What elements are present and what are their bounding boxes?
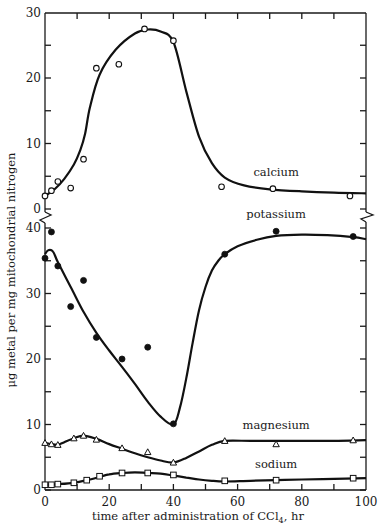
calcium-point-circle-icon xyxy=(55,179,61,185)
y-tick-label: 10 xyxy=(26,418,41,432)
sodium-point-square-icon xyxy=(84,477,90,483)
right-axis-break-icon xyxy=(361,212,373,222)
y-tick-label: 10 xyxy=(26,137,41,151)
calcium-point-circle-icon xyxy=(270,186,276,192)
y-tick-label: 0 xyxy=(33,202,41,216)
sodium-curve xyxy=(45,472,366,485)
potassium-curve xyxy=(45,235,366,425)
potassium-point-dot-icon xyxy=(170,421,176,427)
calcium-curve xyxy=(45,29,366,196)
y-tick-label: 30 xyxy=(26,6,41,20)
potassium-point-dot-icon xyxy=(145,344,151,350)
calcium-point-circle-icon xyxy=(49,188,55,194)
magnesium-point-triangle-icon xyxy=(145,449,151,455)
axes: 0204060801000102030010203040 xyxy=(26,6,378,510)
potassium-point-dot-icon xyxy=(48,229,54,235)
sodium-point-square-icon xyxy=(49,482,55,488)
calcium-point-circle-icon xyxy=(81,156,87,162)
sodium-point-square-icon xyxy=(119,470,125,476)
chart-canvas: 0204060801000102030010203040 calciumpota… xyxy=(0,0,382,528)
potassium-point-dot-icon xyxy=(93,334,99,340)
calcium-point-circle-icon xyxy=(171,38,177,44)
calcium-point-circle-icon xyxy=(116,61,122,67)
y-axis-title: μg metal per mg mitochondrial nitrogen xyxy=(4,152,18,388)
series-labels: calciumpotassiummagnesiumsodium xyxy=(243,165,310,470)
calcium-label: calcium xyxy=(253,165,299,179)
x-tick-label: 0 xyxy=(41,495,49,509)
potassium-point-dot-icon xyxy=(42,255,48,261)
calcium-point-circle-icon xyxy=(94,65,100,71)
y-tick-label: 30 xyxy=(26,287,41,301)
potassium-point-dot-icon xyxy=(81,277,87,283)
potassium-point-dot-icon xyxy=(68,304,74,310)
x-axis-title: time after administration of CCl4, hr xyxy=(92,509,304,525)
x-tick-label: 80 xyxy=(294,495,309,509)
y-tick-label: 40 xyxy=(26,221,41,235)
calcium-point-circle-icon xyxy=(42,193,48,199)
x-tick-label: 100 xyxy=(355,495,378,509)
sodium-point-square-icon xyxy=(273,477,279,483)
fitted-curves xyxy=(45,29,366,484)
magnesium-curve xyxy=(45,436,366,463)
y-tick-label: 0 xyxy=(33,483,41,497)
y-tick-label: 20 xyxy=(26,71,41,85)
y-tick-label: 20 xyxy=(26,352,41,366)
left-axis-break-icon xyxy=(40,212,51,223)
sodium-point-square-icon xyxy=(42,482,48,488)
sodium-point-square-icon xyxy=(145,470,151,476)
calcium-point-circle-icon xyxy=(142,26,148,32)
calcium-point-circle-icon xyxy=(68,185,74,191)
calcium-point-circle-icon xyxy=(219,184,225,190)
calcium-point-circle-icon xyxy=(347,193,353,199)
potassium-point-dot-icon xyxy=(119,356,125,362)
x-tick-label: 60 xyxy=(230,495,245,509)
potassium-point-dot-icon xyxy=(350,234,356,240)
sodium-point-square-icon xyxy=(71,480,77,486)
sodium-point-square-icon xyxy=(222,478,228,484)
x-tick-label: 40 xyxy=(166,495,181,509)
sodium-point-square-icon xyxy=(350,475,356,481)
magnesium-label: magnesium xyxy=(243,418,310,432)
sodium-label: sodium xyxy=(255,457,297,471)
sodium-point-square-icon xyxy=(97,473,103,479)
x-tick-label: 20 xyxy=(102,495,117,509)
potassium-point-dot-icon xyxy=(273,228,279,234)
sodium-point-square-icon xyxy=(171,472,177,478)
sodium-point-square-icon xyxy=(55,481,61,487)
potassium-label: potassium xyxy=(246,207,306,221)
potassium-point-dot-icon xyxy=(222,251,228,257)
potassium-point-dot-icon xyxy=(55,263,61,269)
